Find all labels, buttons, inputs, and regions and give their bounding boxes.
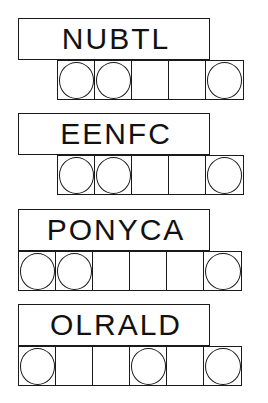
answer-cell-circled[interactable] — [205, 60, 244, 100]
answer-cell-circled[interactable] — [129, 346, 168, 386]
answer-cell-circled[interactable] — [18, 346, 57, 386]
answer-cell[interactable] — [131, 155, 170, 195]
scrambled-word: PONYCA — [18, 209, 210, 251]
answer-cell-circled[interactable] — [55, 251, 94, 291]
answer-cell[interactable] — [131, 60, 170, 100]
answer-cell[interactable] — [92, 346, 131, 386]
answer-cell[interactable] — [168, 60, 207, 100]
answer-cell[interactable] — [166, 251, 205, 291]
answer-cell-circled[interactable] — [57, 60, 96, 100]
answer-cells — [18, 251, 242, 291]
answer-cell-circled[interactable] — [94, 60, 133, 100]
answer-cells — [18, 346, 242, 386]
answer-cell-circled[interactable] — [57, 155, 96, 195]
scrambled-word: OLRALD — [18, 304, 210, 346]
scrambled-word: EENFC — [18, 113, 210, 155]
answer-cell[interactable] — [168, 155, 207, 195]
answer-cell-circled[interactable] — [18, 251, 57, 291]
answer-cell[interactable] — [92, 251, 131, 291]
scrambled-word: NUBTL — [18, 18, 210, 60]
answer-cell-circled[interactable] — [94, 155, 133, 195]
answer-cell[interactable] — [166, 346, 205, 386]
answer-cells — [57, 155, 244, 195]
answer-cell-circled[interactable] — [203, 346, 242, 386]
answer-cell-circled[interactable] — [203, 251, 242, 291]
answer-cell[interactable] — [55, 346, 94, 386]
answer-cells — [57, 60, 244, 100]
answer-cell[interactable] — [129, 251, 168, 291]
answer-cell-circled[interactable] — [205, 155, 244, 195]
